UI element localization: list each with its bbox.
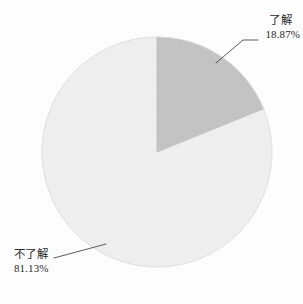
pie-label-known-value: 18.87%	[236, 28, 300, 41]
pie-label-known-name: 了解	[236, 14, 300, 28]
pie-chart-figure: 了解 18.87% 不了解 81.13%	[0, 0, 303, 304]
pie-label-known: 了解 18.87%	[236, 14, 300, 41]
pie-label-unknown-name: 不了解	[14, 248, 94, 262]
pie-label-unknown-value: 81.13%	[14, 262, 94, 275]
pie-label-unknown: 不了解 81.13%	[14, 248, 94, 275]
